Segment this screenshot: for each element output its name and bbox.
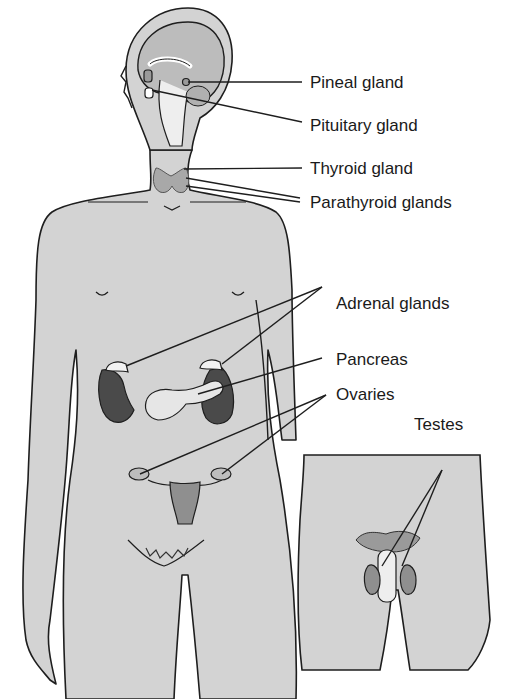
right-testis-shape [400, 565, 416, 594]
label-pituitary-gland: Pituitary gland [310, 117, 418, 134]
label-pancreas: Pancreas [336, 351, 408, 368]
label-parathyroid-glands: Parathyroid glands [310, 194, 452, 211]
pituitary-gland-shape [144, 70, 152, 82]
label-adrenal-glands: Adrenal glands [336, 295, 449, 312]
left-ovary-shape [129, 468, 149, 480]
label-testes: Testes [414, 416, 463, 433]
label-thyroid-gland: Thyroid gland [310, 160, 413, 177]
label-pineal-gland: Pineal gland [310, 74, 404, 91]
diagram-artwork [0, 0, 512, 699]
endocrine-diagram: Pineal gland Pituitary gland Thyroid gla… [0, 0, 512, 699]
left-testis-shape [364, 565, 380, 594]
label-ovaries: Ovaries [336, 386, 395, 403]
male-inset [298, 455, 490, 670]
